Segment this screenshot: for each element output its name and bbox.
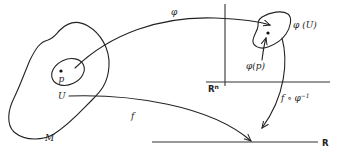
label-phi: φ [171,7,178,17]
image-set-phi-u-outline [253,12,291,48]
label-m: M [44,133,55,143]
label-p: p [59,74,65,84]
image-point-dot [266,31,269,34]
open-set-u-outline [47,53,88,90]
label-r: R [322,138,329,148]
composition-map-arrow [262,38,285,128]
diagram-canvas: p U M φ Rn φ (U) φ(p) f ∘ φ−1 f R [0,0,338,152]
label-f: f [130,111,136,121]
label-phi-p: φ(p) [246,61,266,71]
phi-p-pointer-arrow [262,38,266,60]
label-u: U [58,91,66,101]
label-phi-u: φ (U) [293,20,317,30]
point-p-dot [59,69,62,72]
label-rn: Rn [208,83,219,94]
label-composition: f ∘ φ−1 [280,92,310,103]
manifold-diagram: p U M φ Rn φ (U) φ(p) f ∘ φ−1 f R [0,0,338,152]
f-map-arrow [69,96,251,141]
